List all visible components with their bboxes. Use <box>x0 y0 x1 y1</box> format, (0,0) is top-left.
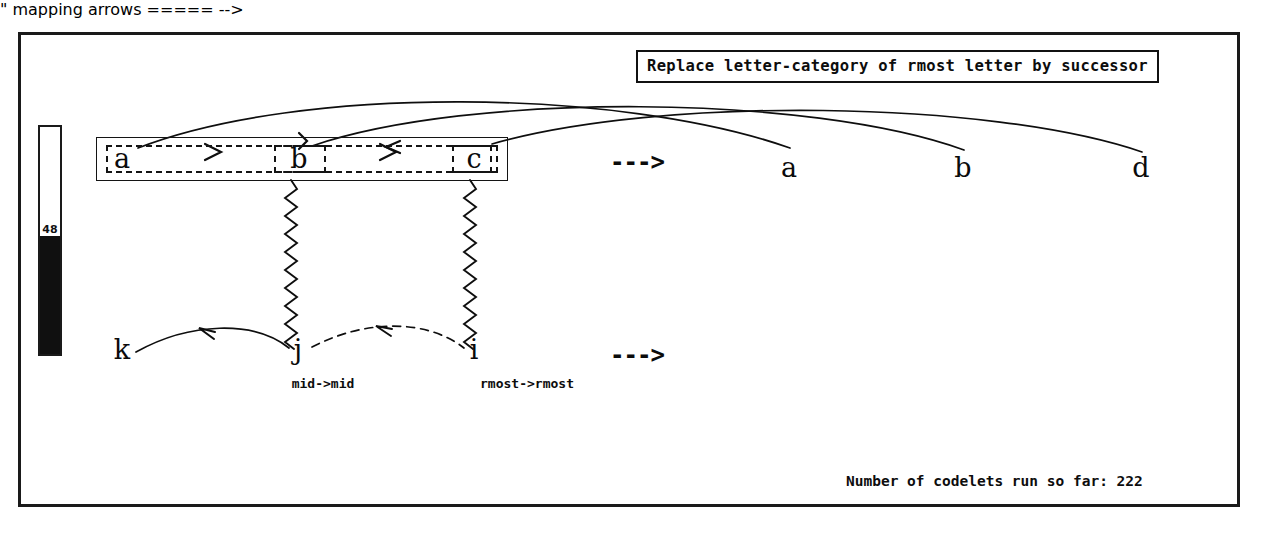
initial-letter-2[interactable]: c <box>466 145 481 172</box>
modified-letter-2[interactable]: d <box>1132 154 1149 181</box>
concept-mapping-mid: mid->mid <box>292 377 355 390</box>
codelet-counter-label: Number of codelets run so far: 222 <box>846 474 1143 489</box>
window-frame <box>18 32 1240 507</box>
codelet-description-text: Replace letter-category of rmost letter … <box>647 57 1148 75</box>
target-letter-0[interactable]: k <box>114 336 130 363</box>
initial-to-modified-arrow-icon: ---> <box>610 150 664 174</box>
workspace-stage: Replace letter-category of rmost letter … <box>0 0 1267 534</box>
target-letter-1[interactable]: j <box>294 336 302 363</box>
modified-letter-1[interactable]: b <box>954 154 971 181</box>
temperature-value: 48 <box>40 223 60 236</box>
concept-mapping-rmost: rmost->rmost <box>480 377 574 390</box>
codelet-description-banner: Replace letter-category of rmost letter … <box>636 50 1159 83</box>
initial-letter-1[interactable]: b <box>290 145 307 172</box>
temperature-gauge[interactable]: 48 <box>38 125 62 356</box>
temperature-mercury <box>40 236 60 354</box>
modified-letter-0[interactable]: a <box>781 154 797 181</box>
target-to-answer-arrow-icon: ---> <box>610 343 664 367</box>
initial-letter-0[interactable]: a <box>114 145 130 172</box>
target-letter-2[interactable]: i <box>470 336 479 363</box>
